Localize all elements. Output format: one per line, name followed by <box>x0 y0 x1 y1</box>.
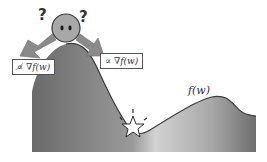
question-mark-right: ? <box>79 8 88 26</box>
spark-line-icon <box>144 118 147 120</box>
left-eye-icon <box>60 26 63 31</box>
agent-ball-icon <box>52 14 80 42</box>
proportional-gradient-label: ∝ ∇f(w) <box>100 53 143 69</box>
diagram-canvas <box>0 0 267 162</box>
right-eye-icon <box>68 26 71 31</box>
loss-landscape <box>32 43 256 152</box>
question-mark-left: ? <box>38 6 47 24</box>
gradient-descent-diagram: ? ? ∝̸ ∇f(w) ∝ ∇f(w) f(w) <box>0 0 267 162</box>
not-proportional-gradient-label: ∝̸ ∇f(w) <box>12 59 55 75</box>
function-label: f(w) <box>188 84 210 97</box>
